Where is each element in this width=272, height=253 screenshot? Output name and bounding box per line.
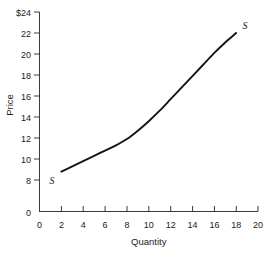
x-tick-marks: [61, 206, 258, 212]
x-tick-label-0: 0: [37, 220, 42, 230]
x-tick-label-6: 6: [103, 220, 108, 230]
x-tick-label-2: 2: [59, 220, 64, 230]
y-axis-title: Price: [4, 94, 15, 116]
x-axis-title: Quantity: [131, 236, 167, 247]
curve-label-upper: S: [243, 20, 248, 31]
y-tick-label-24: $24: [16, 8, 31, 18]
x-tick-label-16: 16: [209, 220, 219, 230]
x-tick-label-14: 14: [188, 220, 198, 230]
y-tick-label-8: 8: [26, 176, 31, 186]
x-tick-label-4: 4: [81, 220, 86, 230]
chart-canvas: $24 22 20 18 16 14 12 10 8 0 0 2 4 6 8 1…: [0, 0, 272, 253]
y-tick-label-14: 14: [21, 113, 31, 123]
y-tick-label-22: 22: [21, 29, 31, 39]
x-tick-label-8: 8: [124, 220, 129, 230]
y-tick-marks: [34, 12, 40, 180]
x-tick-label-20: 20: [253, 220, 263, 230]
x-tick-label-10: 10: [144, 220, 154, 230]
x-tick-label-18: 18: [231, 220, 241, 230]
x-tick-label-12: 12: [166, 220, 176, 230]
y-tick-label-0: 0: [26, 208, 31, 218]
y-tick-label-18: 18: [21, 71, 31, 81]
y-tick-label-20: 20: [21, 50, 31, 60]
y-tick-label-10: 10: [21, 155, 31, 165]
curve-label-lower: S: [50, 175, 55, 186]
y-tick-label-12: 12: [21, 134, 31, 144]
y-tick-label-16: 16: [21, 92, 31, 102]
supply-curve-line: [61, 33, 236, 172]
supply-curve-chart: $24 22 20 18 16 14 12 10 8 0 0 2 4 6 8 1…: [0, 0, 272, 253]
